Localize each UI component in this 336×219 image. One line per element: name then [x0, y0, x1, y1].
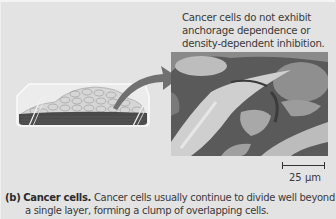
scale-bar: 25 µm [281, 162, 326, 186]
scale-bar-line [282, 165, 325, 166]
caption-panel-label: (b) [5, 192, 20, 203]
figure-caption: (b) Cancer cells. Cancer cells usually c… [5, 192, 335, 217]
annotation-line: density-dependent inhibition. [182, 37, 336, 50]
caption-line-1: (b) Cancer cells. Cancer cells usually c… [5, 192, 335, 205]
caption-line-2: a single layer, forming a clump of overl… [5, 205, 335, 218]
annotation-line: Cancer cells do not exhibit [182, 11, 336, 24]
annotation-line: anchorage dependence or [182, 24, 336, 37]
scale-bar-label: 25 µm [289, 172, 321, 183]
curved-arrow-icon [101, 52, 181, 112]
sem-micrograph-image [171, 52, 328, 156]
caption-text: Cancer cells usually continue to divide … [94, 192, 335, 203]
caption-title: Cancer cells. [23, 192, 91, 203]
micrograph-annotation: Cancer cells do not exhibit anchorage de… [182, 11, 336, 50]
